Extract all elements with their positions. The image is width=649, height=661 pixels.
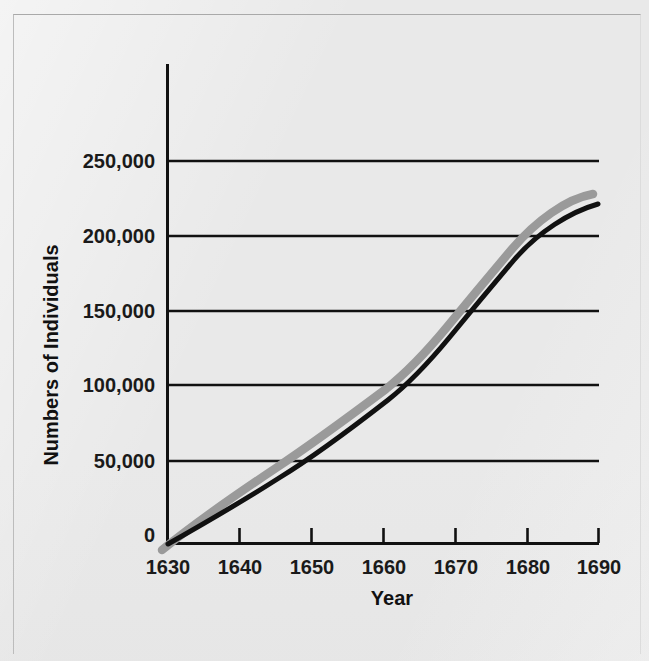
y-tick-label-0: 0 bbox=[144, 524, 155, 546]
x-tick-labels: 1630 1640 1650 1660 1670 1680 1690 bbox=[146, 556, 622, 578]
y-tick-label-100000: 100,000 bbox=[83, 374, 155, 396]
x-tick-label-1640: 1640 bbox=[218, 556, 263, 578]
y-tick-label-200000: 200,000 bbox=[83, 225, 155, 247]
y-tick-labels: 250,000 200,000 150,000 100,000 50,000 0 bbox=[83, 150, 155, 546]
x-axis-title: Year bbox=[371, 587, 413, 609]
x-tick-label-1650: 1650 bbox=[290, 556, 335, 578]
x-axis-ticks bbox=[168, 528, 599, 543]
x-tick-label-1630: 1630 bbox=[146, 556, 191, 578]
line-chart-plot: 250,000 200,000 150,000 100,000 50,000 0… bbox=[0, 0, 649, 661]
chart-figure: 250,000 200,000 150,000 100,000 50,000 0… bbox=[0, 0, 649, 661]
y-axis-title: Numbers of Individuals bbox=[40, 244, 62, 465]
y-tick-label-150000: 150,000 bbox=[83, 300, 155, 322]
gridlines bbox=[167, 161, 599, 461]
y-tick-label-50000: 50,000 bbox=[94, 450, 155, 472]
x-tick-label-1660: 1660 bbox=[362, 556, 407, 578]
x-tick-label-1690: 1690 bbox=[577, 556, 622, 578]
y-tick-label-250000: 250,000 bbox=[83, 150, 155, 172]
x-tick-label-1670: 1670 bbox=[434, 556, 479, 578]
x-tick-label-1680: 1680 bbox=[506, 556, 551, 578]
